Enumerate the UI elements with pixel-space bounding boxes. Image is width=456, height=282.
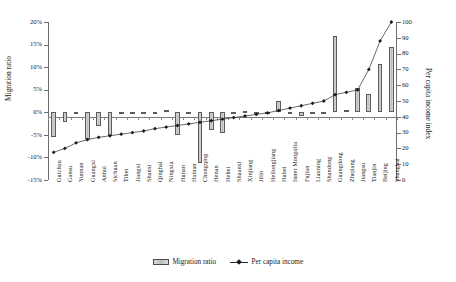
right-tick-label: 100 bbox=[402, 19, 432, 26]
right-tick bbox=[397, 85, 401, 86]
line-marker bbox=[209, 119, 213, 123]
line-marker bbox=[108, 134, 112, 138]
x-axis-label: Zhejiang bbox=[349, 159, 355, 182]
x-axis-label: Shanghai bbox=[394, 158, 400, 182]
line-marker bbox=[288, 106, 292, 110]
x-axis-label: Hunan bbox=[180, 165, 186, 182]
right-tick bbox=[397, 22, 401, 23]
x-axis-label: Henan bbox=[213, 165, 219, 182]
x-axis-label: Liaoning bbox=[315, 159, 321, 182]
right-tick bbox=[397, 148, 401, 149]
left-tick-label: -5% bbox=[12, 132, 42, 139]
chart-figure: Migration ratio Per capita income index … bbox=[0, 0, 456, 282]
line-diamond-icon bbox=[230, 259, 248, 265]
line-marker bbox=[74, 141, 78, 145]
right-tick-label: 10 bbox=[402, 161, 432, 168]
line-marker bbox=[63, 147, 67, 151]
right-tick bbox=[397, 38, 401, 39]
line-marker bbox=[232, 116, 236, 120]
plot-area: -15%-10%-5%0%5%10%15%20% 010203040506070… bbox=[48, 22, 397, 180]
x-axis-label: Shandong bbox=[326, 156, 332, 182]
line-marker bbox=[299, 104, 303, 108]
x-axis-labels: GuizhouGansuYunnanGuangxiAnhuiSichuanTib… bbox=[48, 182, 397, 254]
x-axis-label: Chongqing bbox=[202, 154, 208, 182]
left-tick-label: -15% bbox=[12, 177, 42, 184]
x-axis-label: Fujian bbox=[304, 166, 310, 182]
x-axis-label: Gansu bbox=[67, 166, 73, 182]
line-marker bbox=[153, 127, 157, 131]
line-marker bbox=[164, 125, 168, 129]
x-axis-label: Inner Mongolia bbox=[292, 142, 298, 182]
line-marker bbox=[131, 131, 135, 135]
category-tick bbox=[397, 117, 398, 120]
line-marker bbox=[367, 68, 371, 72]
right-tick bbox=[397, 69, 401, 70]
right-tick-label: 30 bbox=[402, 129, 432, 136]
right-tick bbox=[397, 101, 401, 102]
x-axis-label: Yunnan bbox=[78, 162, 84, 182]
x-axis-label: Qinghai bbox=[157, 161, 163, 182]
right-tick-label: 80 bbox=[402, 50, 432, 57]
line-path bbox=[54, 22, 392, 152]
x-axis-label: Guizhou bbox=[56, 160, 62, 182]
x-axis-label: Shanxi bbox=[146, 164, 152, 182]
right-tick-label: 0 bbox=[402, 177, 432, 184]
left-tick-label: 5% bbox=[12, 86, 42, 93]
x-axis-label: Shaanxi bbox=[236, 161, 242, 182]
x-axis-label: Ningxia bbox=[168, 161, 174, 182]
line-marker bbox=[322, 99, 326, 103]
line-marker bbox=[198, 120, 202, 124]
line-marker bbox=[344, 90, 348, 94]
bar-swatch-icon bbox=[153, 259, 169, 265]
x-axis-label: Xinjiang bbox=[247, 160, 253, 182]
line-marker bbox=[52, 150, 56, 154]
legend-item-per-capita-income: Per capita income bbox=[230, 258, 303, 266]
chart-legend: Migration ratio Per capita income bbox=[0, 258, 456, 266]
line-marker bbox=[142, 129, 146, 133]
line-marker bbox=[277, 109, 281, 113]
x-axis-label: Jiangsu bbox=[360, 163, 366, 182]
line-marker bbox=[254, 113, 258, 117]
x-axis-label: Hainan bbox=[191, 164, 197, 182]
line-marker bbox=[311, 101, 315, 105]
x-axis-label: Anhui bbox=[101, 166, 107, 182]
x-axis-label: Hebei bbox=[225, 167, 231, 182]
right-tick-label: 60 bbox=[402, 82, 432, 89]
line-marker bbox=[378, 39, 382, 43]
line-marker bbox=[86, 138, 90, 142]
x-axis-label: Beijing bbox=[382, 163, 388, 182]
left-tick bbox=[44, 180, 48, 181]
line-marker bbox=[221, 117, 225, 121]
line-marker bbox=[266, 111, 270, 115]
legend-label-per-capita-income: Per capita income bbox=[252, 258, 304, 266]
x-axis-label: Guangdong bbox=[337, 152, 343, 182]
right-tick bbox=[397, 54, 401, 55]
x-axis-label: Hubei bbox=[281, 166, 287, 182]
right-tick-label: 50 bbox=[402, 98, 432, 105]
right-tick-label: 70 bbox=[402, 66, 432, 73]
left-tick-label: 15% bbox=[12, 41, 42, 48]
y-axis-title-left: Migration ratio bbox=[5, 56, 12, 101]
x-axis-label: Jilin bbox=[258, 171, 264, 182]
left-tick-label: -10% bbox=[12, 154, 42, 161]
x-axis-label: Heilongjiang bbox=[270, 148, 276, 182]
right-tick-label: 90 bbox=[402, 35, 432, 42]
legend-item-migration-ratio: Migration ratio bbox=[153, 258, 216, 266]
line-series bbox=[48, 22, 397, 180]
x-axis-label: Sichuan bbox=[112, 161, 118, 182]
x-axis-label: Tianjin bbox=[371, 164, 377, 182]
line-marker bbox=[187, 122, 191, 126]
line-marker bbox=[176, 124, 180, 128]
right-tick-label: 40 bbox=[402, 114, 432, 121]
line-marker bbox=[119, 132, 123, 136]
line-marker bbox=[333, 93, 337, 97]
line-marker bbox=[243, 114, 247, 118]
legend-label-migration-ratio: Migration ratio bbox=[172, 258, 216, 266]
left-tick-label: 10% bbox=[12, 64, 42, 71]
right-tick-label: 20 bbox=[402, 145, 432, 152]
left-tick-label: 0% bbox=[12, 109, 42, 116]
line-marker bbox=[356, 88, 360, 92]
x-axis-label: Guangxi bbox=[90, 160, 96, 182]
line-marker bbox=[97, 135, 101, 139]
left-tick-label: 20% bbox=[12, 19, 42, 26]
